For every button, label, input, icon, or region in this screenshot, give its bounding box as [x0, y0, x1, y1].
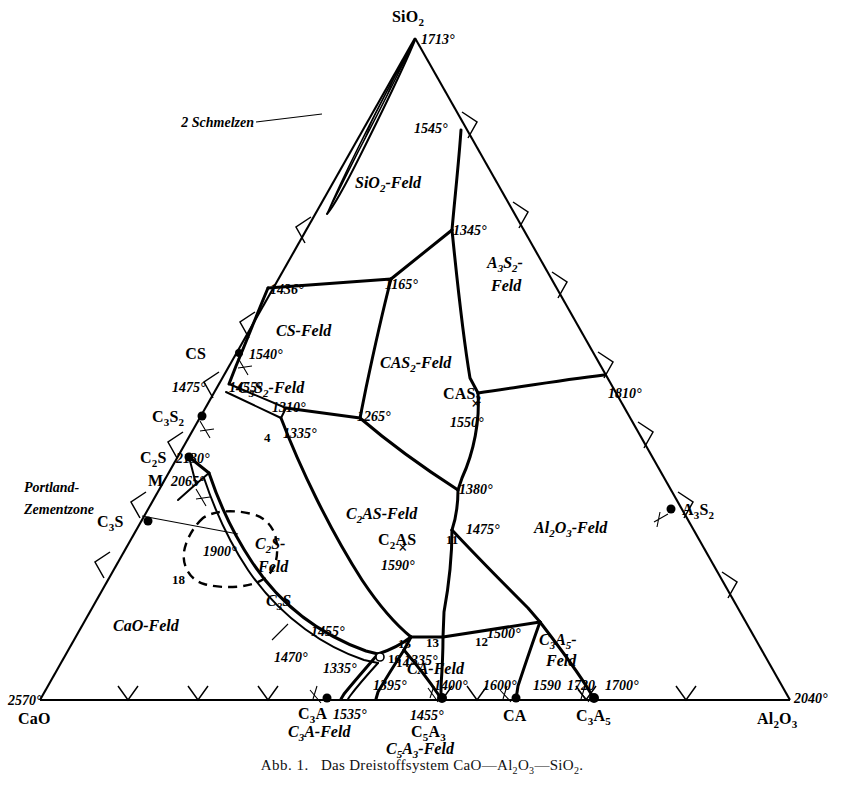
temp-2065: 2065°: [170, 474, 205, 489]
boundary-1265-1380: [360, 418, 458, 490]
temp-1475a: 1475°: [172, 380, 206, 395]
boundary-1165-1265: [360, 279, 391, 418]
point-16: 16: [388, 651, 402, 666]
caption-body: Das Dreistoffsystem CaO—Al: [321, 757, 513, 773]
apex-temp-1713: 1713°: [421, 32, 455, 47]
marker-ca: [512, 694, 521, 703]
tick-left-5: [131, 492, 146, 518]
marker-c3s2: [198, 412, 207, 421]
temp-1455a: 1455°: [229, 380, 263, 395]
field-label-cao: CaO-Feld: [113, 617, 180, 634]
field-label-cs: CS-Feld: [276, 322, 332, 339]
temp-1545: 1545°: [414, 121, 448, 136]
marker-c3a5: [589, 693, 599, 703]
temp-1535: 1535°: [333, 707, 367, 722]
point-15: 15: [398, 636, 412, 651]
tick-bottom-1: [118, 686, 138, 700]
temp-1335a: 1335°: [283, 426, 317, 441]
annotation-portland-line1: Portland-: [24, 480, 80, 495]
temp-1436: 1436°: [270, 282, 304, 297]
compound-label-m: M: [148, 472, 163, 489]
temp-1470: 1470°: [274, 650, 308, 665]
tick-bottom-7: [676, 686, 696, 700]
temp-1600: 1600°: [483, 678, 517, 693]
temp-1590: 1590°: [381, 558, 415, 573]
field-label-a3s2-line2: Feld: [490, 277, 522, 294]
marker-16: [376, 653, 384, 661]
point-13: 13: [426, 635, 440, 650]
temp-1540: 1540°: [249, 347, 283, 362]
tick-left-1: [296, 217, 311, 243]
annotation-labels: 2 Schmelzen Portland- Zementzone: [23, 114, 322, 517]
temp-1720: 1720: [567, 678, 595, 693]
compound-label-ca: CA: [503, 707, 527, 724]
edge-tick-marks: [95, 112, 737, 700]
marker-c5a3: [437, 693, 447, 703]
tick-bottom-3: [258, 686, 278, 700]
temp-1455b: 1455°: [311, 624, 345, 639]
compound-label-c3s2: C3S2: [152, 408, 185, 428]
field-label-sio2: SiO2-Feld: [355, 174, 422, 194]
ternary-phase-diagram: × × SiO2 1713° 2570° CaO 2040°: [0, 0, 844, 790]
boundary-1545-1345: [452, 130, 461, 230]
compound-label-c2as: C2AS: [378, 531, 416, 551]
field-label-c2s-line2: Feld: [257, 558, 289, 575]
field-label-c3a5-line2: Feld: [545, 652, 577, 669]
boundary-1345-cas2top: [452, 230, 478, 393]
caption-number: Abb. 1.: [261, 757, 309, 773]
figure-caption: Abb. 1. Das Dreistoffsystem CaO—Al2O3—Si…: [0, 757, 844, 776]
figure-root: × × SiO2 1713° 2570° CaO 2040°: [0, 0, 844, 790]
compound-label-cs: CS: [185, 345, 206, 362]
temp-1500: 1500°: [487, 626, 521, 641]
temp-1590b: 1590: [533, 678, 561, 693]
field-label-c2as: C2AS-Feld: [346, 505, 418, 525]
tick-bottom-2: [188, 686, 208, 700]
temp-1380: 1380°: [459, 482, 493, 497]
phase-boundaries: [178, 130, 604, 699]
temp-1335c: 1335°: [404, 653, 438, 668]
marker-c3s: [144, 517, 153, 526]
marker-a3s2: [667, 505, 676, 514]
zwei-schmelzen-leader: [256, 114, 322, 122]
boundary-cas2-1810: [478, 375, 604, 393]
edge-sio2-al2o3: [415, 38, 790, 700]
compound-label-c3a5: C3A5: [576, 707, 611, 727]
temp-1345: 1345°: [453, 223, 487, 238]
compound-label-c3s: C3S: [97, 513, 124, 533]
temp-1395: 1395°: [373, 678, 407, 693]
temp-1400: 1400°: [434, 678, 468, 693]
point-4: 4: [264, 430, 271, 445]
field-label-c2s-line1: C2S-: [255, 535, 285, 555]
compound-label-c3a: C3A: [298, 705, 327, 725]
temp-1265: 1265°: [357, 409, 391, 424]
corner-temp-2040: 2040°: [793, 691, 828, 706]
temp-1900: 1900°: [203, 544, 237, 559]
boundary-11-1500: [452, 530, 540, 622]
boundary-1436-1455: [229, 288, 268, 384]
point-12: 12: [475, 634, 488, 649]
boundary-1345-1165: [391, 230, 452, 279]
annotation-portland-line2: Zementzone: [23, 502, 94, 517]
corner-label-al2o3: Al2O3: [757, 710, 798, 730]
point-18: 18: [172, 572, 186, 587]
temp-1700: 1700°: [605, 678, 639, 693]
temp-1810: 1810°: [608, 386, 642, 401]
corner-label-cao: CaO: [18, 710, 51, 727]
edge-sio2-cao: [40, 38, 415, 700]
marker-c3a: [323, 694, 332, 703]
annotation-zwei-schmelzen: 2 Schmelzen: [180, 115, 254, 130]
temp-1455c: 1455°: [410, 708, 444, 723]
tick-left-3: [204, 372, 219, 398]
apex-label-sio2: SiO2: [392, 8, 424, 28]
temp-1165: 1165°: [385, 277, 418, 292]
field-label-cas2: CAS2-Feld: [380, 354, 452, 374]
caption-sub-3: 2: [574, 765, 579, 776]
corner-temp-2570: 2570°: [7, 693, 42, 708]
tick-left-6: [95, 552, 110, 578]
temp-1310: 1310°: [272, 400, 306, 415]
caption-sub-2: 3: [529, 765, 534, 776]
temp-1550: 1550°: [450, 415, 484, 430]
caption-sub-1: 2: [513, 765, 518, 776]
field-label-a3s2-line1: A3S2-: [486, 254, 523, 274]
temp-1475b: 1475°: [466, 522, 500, 537]
